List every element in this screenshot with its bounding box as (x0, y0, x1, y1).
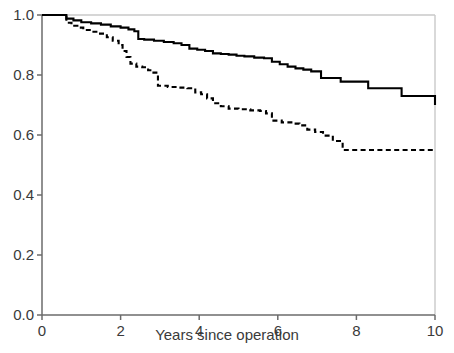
y-tick-label: 1.0 (0, 6, 34, 23)
y-tick-label: 0.0 (0, 306, 34, 323)
y-tick-label: 0.6 (0, 126, 34, 143)
y-tick-label: 0.2 (0, 246, 34, 263)
x-axis-title: Years since operation (0, 326, 454, 343)
survival-chart-figure: 0.00.20.40.60.81.0 0246810 Years since o… (0, 0, 454, 353)
y-tick-label: 0.8 (0, 66, 34, 83)
y-tick-label: 0.4 (0, 186, 34, 203)
series-solid-curve (42, 15, 435, 105)
plot-area (0, 0, 454, 353)
series-dashed-curve (42, 15, 435, 150)
